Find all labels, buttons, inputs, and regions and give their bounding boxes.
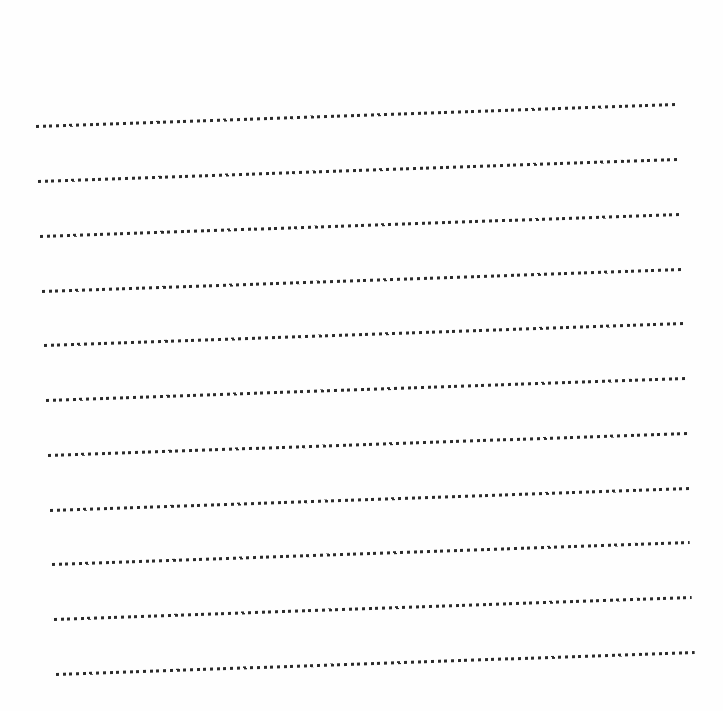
dotted-rule-line: [50, 487, 690, 512]
dotted-rule-line: [42, 268, 682, 293]
dotted-rule-line: [56, 651, 695, 676]
dotted-rule-line: [38, 158, 678, 183]
dotted-rule-line: [48, 432, 688, 457]
dotted-rule-line: [36, 103, 676, 128]
dotted-rule-line: [40, 213, 680, 238]
lined-writing-sheet: [0, 0, 723, 711]
dotted-rule-line: [52, 541, 690, 566]
dotted-rule-line: [44, 322, 684, 347]
dotted-rule-line: [54, 596, 692, 621]
dotted-rule-line: [46, 377, 686, 402]
